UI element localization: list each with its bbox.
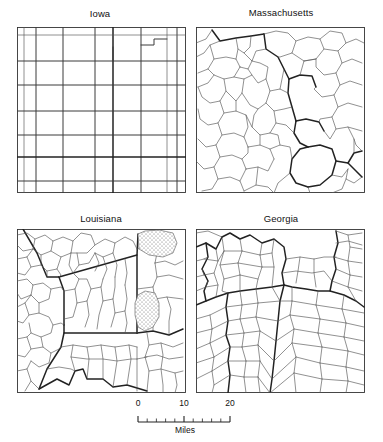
panel-title-louisiana: Louisiana [61, 213, 141, 224]
panel-title-georgia: Georgia [241, 213, 321, 224]
stipple-region-south [135, 291, 159, 331]
map-panel-iowa[interactable] [17, 27, 186, 193]
figure-root: Iowa [0, 0, 383, 442]
panel-title-massachusetts: Massachusetts [231, 7, 331, 18]
scale-tick-label-20: 20 [220, 398, 240, 408]
massachusetts-map-svg [196, 27, 365, 193]
iowa-map-svg [17, 27, 186, 193]
stipple-region-north [138, 230, 177, 257]
scale-tick-label-0: 0 [128, 398, 148, 408]
scale-units-label: Miles [130, 425, 240, 435]
map-panel-massachusetts[interactable] [196, 27, 365, 193]
scale-bar-ticks [138, 416, 230, 422]
scale-tick-label-10: 10 [174, 398, 194, 408]
map-panel-louisiana[interactable] [17, 229, 186, 393]
scale-bar: 0 10 20 Miles [130, 400, 240, 438]
ga-boundaries [196, 231, 364, 393]
iowa-panel-frame [18, 28, 186, 193]
ga-panel-frame [197, 230, 365, 393]
louisiana-map-svg [17, 229, 186, 393]
la-stipple-regions [135, 230, 177, 331]
panel-title-iowa: Iowa [60, 8, 140, 19]
georgia-map-svg [196, 229, 365, 393]
map-panel-georgia[interactable] [196, 229, 365, 393]
iowa-boundaries [17, 27, 186, 193]
ma-boundaries [196, 30, 364, 193]
